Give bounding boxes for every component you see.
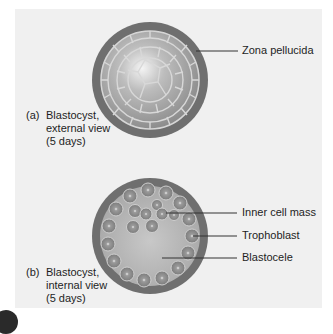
label-trophoblast: Trophoblast <box>242 229 300 242</box>
caption-b-tag: (b) <box>26 266 39 279</box>
step-badge-icon <box>0 310 18 334</box>
caption-a-line-2: external view <box>46 122 110 135</box>
label-blastocele: Blastocele <box>242 251 293 264</box>
caption-b-line-3: (5 days) <box>46 292 107 305</box>
caption-panel-a: (a) Blastocyst, external view (5 days) <box>26 109 116 149</box>
label-inner-cell-mass: Inner cell mass <box>242 206 316 219</box>
caption-a-tag: (a) <box>26 109 39 122</box>
caption-a-line-1: Blastocyst, <box>46 109 110 122</box>
caption-b-line-1: Blastocyst, <box>46 266 107 279</box>
label-zona-pellucida: Zona pellucida <box>242 44 314 57</box>
caption-a-line-3: (5 days) <box>46 135 110 148</box>
caption-panel-b: (b) Blastocyst, internal view (5 days) <box>26 266 116 306</box>
caption-b-line-2: internal view <box>46 279 107 292</box>
